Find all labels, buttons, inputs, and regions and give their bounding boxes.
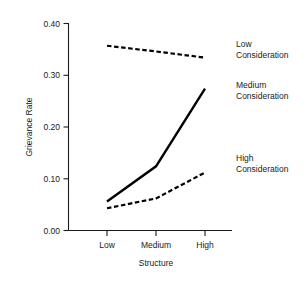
x-axis-title: Structure [139,258,174,268]
series-label-medium-consideration-line1: Medium [236,80,266,90]
y-tick-label-0.10: 0.10 [43,174,60,184]
series-label-high-consideration-line1: High [236,153,254,163]
chart-container: 0.40 0.30 0.20 0.10 0.00 Grievance Rate … [0,0,308,284]
y-tick-label-0.00: 0.00 [43,226,60,236]
series-label-low-consideration-line2: Consideration [236,50,289,60]
y-axis-title: Grievance Rate [24,97,34,156]
y-tick-label-0.30: 0.30 [43,70,60,80]
x-tick-label-medium: Medium [141,240,171,250]
series-line-low-consideration [107,46,205,58]
series-label-low-consideration-line1: Low [236,39,252,49]
y-tick-label-0.20: 0.20 [43,122,60,132]
series-line-medium-consideration [107,89,205,202]
grievance-rate-line-chart: 0.40 0.30 0.20 0.10 0.00 Grievance Rate … [0,0,308,284]
x-tick-label-high: High [196,240,214,250]
y-tick-label-0.40: 0.40 [43,19,60,29]
series-label-high-consideration-line2: Consideration [236,164,289,174]
x-tick-label-low: Low [99,240,115,250]
series-label-medium-consideration-line2: Consideration [236,91,289,101]
